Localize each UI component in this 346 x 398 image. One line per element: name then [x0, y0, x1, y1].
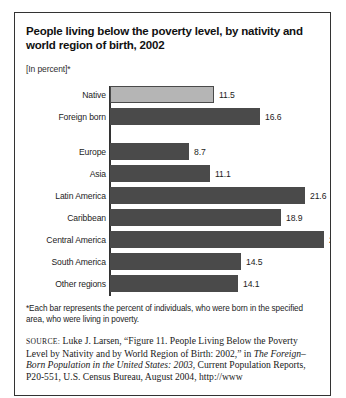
- bar-row: Central America23.6: [26, 231, 321, 248]
- page-title: People living below the poverty level, b…: [26, 24, 304, 52]
- chart-footnote: *Each bar represents the percent of indi…: [26, 304, 314, 325]
- chart-units-note: [In percent]*: [26, 64, 321, 74]
- bar: [110, 275, 238, 292]
- bar-category-label: Caribbean: [67, 213, 106, 223]
- bar: [110, 231, 324, 248]
- bar: [110, 187, 305, 204]
- bar-value-label: 18.9: [286, 213, 302, 223]
- bar-value-label: 14.5: [246, 257, 262, 267]
- bar-category-label: Asia: [90, 169, 106, 179]
- bar-value-label: 16.6: [265, 112, 281, 122]
- bar-value-label: 21.6: [310, 191, 326, 201]
- bar-row: Native11.5: [26, 86, 321, 103]
- figure-inner: People living below the poverty level, b…: [15, 13, 330, 382]
- bar-row: Latin America21.6: [26, 187, 321, 204]
- bar-category-label: Foreign born: [58, 112, 106, 122]
- bar-value-label: 14.1: [243, 279, 259, 289]
- figure-panel: People living below the poverty level, b…: [14, 12, 331, 396]
- bar-row: Europe8.7: [26, 143, 321, 160]
- bar-value-label: 23.6: [329, 235, 331, 245]
- bar-category-label: Latin America: [55, 191, 106, 201]
- bar: [110, 108, 260, 125]
- bar-row: Foreign born16.6: [26, 108, 321, 125]
- bar-row: Caribbean18.9: [26, 209, 321, 226]
- bar-row: Asia11.1: [26, 165, 321, 182]
- source-label: SOURCE:: [26, 337, 60, 346]
- source-citation: SOURCE: Luke J. Larsen, “Figure 11. Peop…: [26, 335, 318, 382]
- bar: [110, 86, 214, 103]
- bar: [110, 209, 281, 226]
- bar: [110, 143, 189, 160]
- bar-row: South America14.5: [26, 253, 321, 270]
- bar-category-label: Other regions: [55, 279, 106, 289]
- bar: [110, 165, 210, 182]
- bar: [110, 253, 241, 270]
- bar-category-label: South America: [51, 257, 106, 267]
- bar-category-label: Europe: [79, 147, 106, 157]
- bar-value-label: 8.7: [194, 147, 206, 157]
- bar-value-label: 11.5: [219, 90, 235, 100]
- bar-category-label: Central America: [46, 235, 106, 245]
- bar-category-label: Native: [82, 90, 106, 100]
- bar-row: Other regions14.1: [26, 275, 321, 292]
- bar-value-label: 11.1: [215, 169, 231, 179]
- bar-chart-plot: Native11.5Foreign born16.6Europe8.7Asia1…: [26, 86, 321, 291]
